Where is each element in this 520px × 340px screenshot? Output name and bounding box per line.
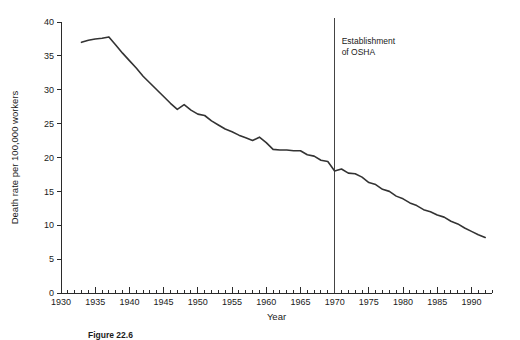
x-axis-title: Year — [267, 311, 286, 322]
osha-annotation-line2: of OSHA — [342, 47, 376, 57]
x-tick-label: 1950 — [188, 297, 208, 307]
osha-annotation-line1: Establishment — [342, 36, 396, 46]
x-tick-label: 1970 — [325, 297, 345, 307]
y-tick-label: 20 — [44, 153, 54, 163]
x-tick-label: 1935 — [85, 297, 105, 307]
x-axis-ticks — [61, 287, 492, 293]
line-chart: 0510152025303540 19301935194019451950195… — [0, 0, 520, 340]
x-tick-label: 1955 — [222, 297, 242, 307]
x-tick-label: 1945 — [154, 297, 174, 307]
x-tick-label: 1930 — [51, 297, 71, 307]
x-tick-label: 1990 — [461, 297, 481, 307]
y-tick-label: 35 — [44, 51, 54, 61]
y-tick-label: 10 — [44, 220, 54, 230]
x-tick-label: 1980 — [393, 297, 413, 307]
x-tick-label: 1965 — [290, 297, 310, 307]
x-tick-label: 1940 — [119, 297, 139, 307]
x-axis-tick-labels: 1930193519401945195019551960196519701975… — [51, 297, 482, 307]
y-axis-ticks — [57, 22, 61, 293]
y-tick-label: 15 — [44, 187, 54, 197]
y-tick-label: 30 — [44, 85, 54, 95]
figure-caption: Figure 22.6 — [88, 330, 133, 340]
x-tick-label: 1985 — [427, 297, 447, 307]
death-rate-series-line — [82, 37, 486, 238]
y-tick-label: 25 — [44, 119, 54, 129]
y-axis-tick-labels: 0510152025303540 — [44, 17, 54, 298]
y-axis-title: Death rate per 100,000 workers — [9, 90, 20, 224]
y-tick-label: 5 — [49, 254, 54, 264]
y-tick-label: 40 — [44, 17, 54, 27]
x-tick-label: 1960 — [256, 297, 276, 307]
figure-container: 0510152025303540 19301935194019451950195… — [0, 0, 520, 340]
x-tick-label: 1975 — [359, 297, 379, 307]
